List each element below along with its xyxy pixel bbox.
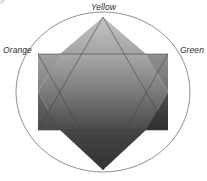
label-green: Green bbox=[180, 45, 204, 55]
center-hexagon bbox=[38, 54, 168, 130]
star-tip-yellow bbox=[60, 17, 146, 54]
cropped-text-fragment: e bbox=[0, 0, 5, 7]
hexagram-diagram bbox=[0, 0, 207, 181]
label-orange: Orange bbox=[3, 45, 32, 55]
color-wheel-figure: Yellow Orange Green e bbox=[0, 0, 207, 181]
star-tip-bottom bbox=[60, 130, 146, 170]
label-yellow: Yellow bbox=[0, 2, 207, 12]
